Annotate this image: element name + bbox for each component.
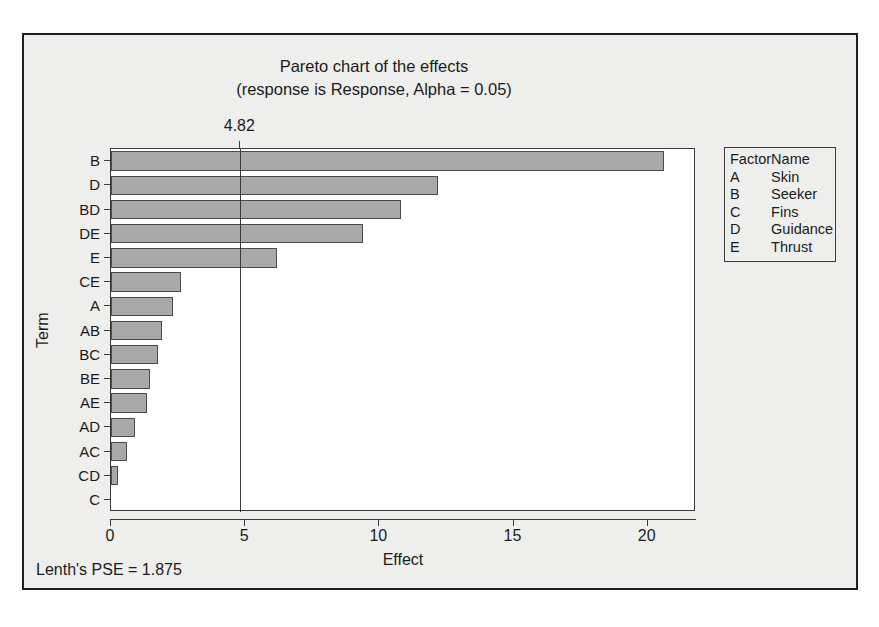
x-tick-15 (513, 519, 514, 526)
bar-A (111, 297, 173, 316)
x-axis-title: Effect (110, 551, 696, 569)
y-tick-C (104, 499, 110, 500)
y-axis-title: Term (34, 312, 52, 348)
y-tick-label-AD: AD (58, 418, 100, 435)
bar-CE (111, 272, 181, 291)
bar-BD (111, 200, 401, 219)
factor-legend: FactorNameASkinBSeekerCFinsDGuidanceEThr… (724, 147, 836, 262)
legend-name-B: Seeker (771, 186, 833, 204)
y-tick-AC (104, 451, 110, 452)
legend-name-A: Skin (771, 169, 833, 187)
bar-AD (111, 418, 135, 437)
x-tick-label-10: 10 (369, 527, 387, 545)
legend-name-C: Fins (771, 204, 833, 222)
x-tick-10 (378, 519, 379, 526)
y-tick-label-DE: DE (58, 224, 100, 241)
y-tick-label-E: E (58, 248, 100, 265)
x-axis-line (110, 519, 696, 520)
bar-D (111, 176, 438, 195)
legend-factor-E: E (730, 239, 771, 257)
reference-line-label: 4.82 (224, 117, 255, 135)
legend-row: EThrust (730, 239, 833, 257)
y-tick-AE (104, 402, 110, 403)
x-tick-20 (647, 519, 648, 526)
y-tick-label-A: A (58, 297, 100, 314)
legend-row: DGuidance (730, 221, 833, 239)
x-tick-5 (244, 519, 245, 526)
legend-row: ASkin (730, 169, 833, 187)
plot-area (110, 148, 695, 511)
legend-row: BSeeker (730, 186, 833, 204)
legend-name-E: Thrust (771, 239, 833, 257)
bar-BE (111, 369, 150, 388)
y-tick-E (104, 257, 110, 258)
reference-line-tick (239, 141, 240, 148)
reference-line (240, 148, 241, 512)
bar-AB (111, 321, 162, 340)
pareto-chart-figure: Pareto chart of the effects (response is… (22, 33, 858, 590)
y-tick-AD (104, 426, 110, 427)
legend-header-name: Name (771, 151, 833, 169)
legend-factor-D: D (730, 221, 771, 239)
legend-factor-A: A (730, 169, 771, 187)
bar-DE (111, 224, 363, 243)
y-tick-label-BC: BC (58, 345, 100, 362)
x-tick-label-5: 5 (240, 527, 249, 545)
legend-row: CFins (730, 204, 833, 222)
y-tick-BE (104, 378, 110, 379)
y-tick-label-CE: CE (58, 273, 100, 290)
lenths-pse-annotation: Lenth's PSE = 1.875 (36, 561, 182, 579)
chart-subtitle: (response is Response, Alpha = 0.05) (24, 78, 724, 101)
y-tick-label-B: B (58, 152, 100, 169)
chart-title-block: Pareto chart of the effects (response is… (24, 55, 724, 101)
y-tick-label-CD: CD (58, 466, 100, 483)
bar-BC (111, 345, 158, 364)
y-tick-AB (104, 330, 110, 331)
y-tick-label-BD: BD (58, 200, 100, 217)
y-tick-label-BE: BE (58, 369, 100, 386)
bar-E (111, 248, 277, 267)
y-tick-BC (104, 354, 110, 355)
y-tick-B (104, 160, 110, 161)
y-tick-BD (104, 209, 110, 210)
y-tick-DE (104, 233, 110, 234)
y-tick-CD (104, 475, 110, 476)
bar-AE (111, 393, 147, 412)
bar-AC (111, 442, 127, 461)
x-tick-label-20: 20 (638, 527, 656, 545)
y-tick-label-AC: AC (58, 442, 100, 459)
legend-name-D: Guidance (771, 221, 833, 239)
y-tick-A (104, 305, 110, 306)
y-tick-label-AB: AB (58, 321, 100, 338)
x-tick-label-0: 0 (106, 527, 115, 545)
bar-B (111, 151, 664, 170)
legend-header-factor: Factor (730, 151, 771, 169)
chart-title: Pareto chart of the effects (24, 55, 724, 78)
y-tick-label-AE: AE (58, 394, 100, 411)
x-tick-label-15: 15 (504, 527, 522, 545)
y-tick-label-D: D (58, 176, 100, 193)
y-tick-label-C: C (58, 490, 100, 507)
x-tick-0 (110, 519, 111, 526)
bar-CD (111, 466, 118, 485)
legend-factor-B: B (730, 186, 771, 204)
y-tick-D (104, 184, 110, 185)
legend-factor-C: C (730, 204, 771, 222)
legend-header-row: FactorName (730, 151, 833, 169)
y-tick-CE (104, 281, 110, 282)
